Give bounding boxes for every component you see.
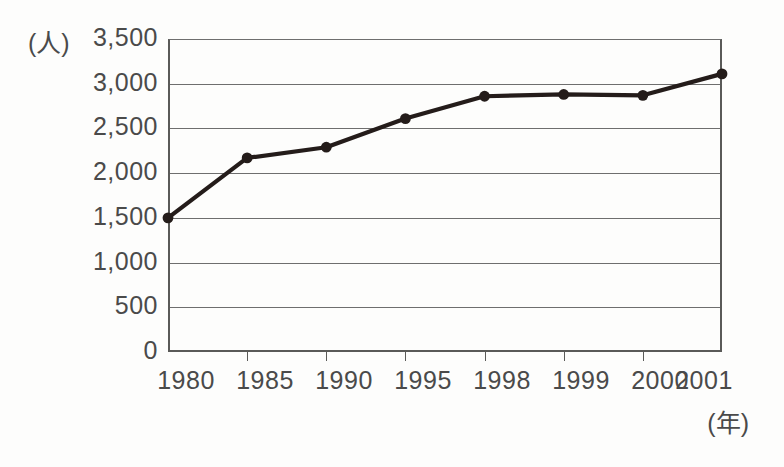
x-tick-label: 1980 — [157, 366, 215, 395]
x-tick-label: 1998 — [473, 366, 531, 395]
x-tick — [485, 352, 486, 361]
x-tick-label: 1999 — [552, 366, 610, 395]
y-tick-label: 2,500 — [93, 112, 158, 141]
plot-area — [168, 39, 722, 352]
y-tick-label: 1,000 — [93, 247, 158, 276]
line-chart: (人) 3,500 3,000 2,500 2,000 1,500 1,000 … — [0, 0, 784, 467]
x-tick — [643, 352, 644, 361]
x-tick — [564, 352, 565, 361]
x-tick-label: 1985 — [236, 366, 294, 395]
x-axis-unit-label: (年) — [707, 403, 749, 439]
y-axis-unit-label: (人) — [28, 23, 70, 59]
x-tick-label: 1995 — [394, 366, 452, 395]
x-tick — [405, 352, 406, 361]
y-tick-label: 0 — [144, 336, 158, 365]
y-tick-label: 3,500 — [93, 23, 158, 52]
x-tick — [247, 352, 248, 361]
x-tick-label: 2001 — [675, 366, 733, 395]
x-tick-label: 1990 — [315, 366, 373, 395]
y-tick-label: 3,000 — [93, 68, 158, 97]
y-tick-label: 2,000 — [93, 157, 158, 186]
x-tick — [326, 352, 327, 361]
y-tick-label: 500 — [115, 291, 158, 320]
y-tick-label: 1,500 — [93, 202, 158, 231]
